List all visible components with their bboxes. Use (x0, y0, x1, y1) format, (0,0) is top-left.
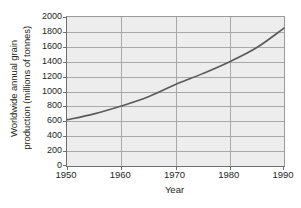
y-axis-tick-label: 1800 (36, 26, 62, 35)
y-axis-tick-label: 200 (36, 146, 62, 155)
x-axis-tick-label: 1960 (110, 169, 131, 180)
y-axis-tick-label: 1200 (36, 71, 62, 80)
chart-figure: Worldwide annual grain production (milli… (0, 0, 301, 208)
y-axis-tick-labels: 0200400600800100012001400160018002000 (36, 16, 62, 165)
x-axis-tick-label: 1990 (272, 169, 293, 180)
y-axis-tick-label: 600 (36, 116, 62, 125)
data-series-line (67, 17, 284, 166)
y-axis-tick-label: 400 (36, 131, 62, 140)
y-axis-label-line-1: Worldwide annual grain (8, 40, 20, 137)
y-axis-label: Worldwide annual grain production (milli… (0, 0, 40, 176)
plot-area (66, 16, 285, 167)
x-axis-tick-label: 1950 (55, 169, 76, 180)
x-axis-label: Year (66, 184, 283, 195)
x-axis-tick-label: 1980 (218, 169, 239, 180)
y-axis-tick-label: 1400 (36, 56, 62, 65)
x-axis-tick-label: 1970 (164, 169, 185, 180)
y-axis-label-line-2: production (millions of tonnes) (21, 26, 33, 150)
y-axis-tick-label: 1000 (36, 86, 62, 95)
x-axis-tick-labels: 19501960197019801990 (66, 169, 283, 183)
y-axis-tick-label: 1600 (36, 41, 62, 50)
plot-inner (67, 17, 284, 166)
y-axis-tick-label: 2000 (36, 12, 62, 21)
y-axis-tick-label: 800 (36, 101, 62, 110)
